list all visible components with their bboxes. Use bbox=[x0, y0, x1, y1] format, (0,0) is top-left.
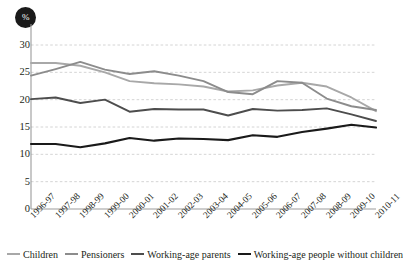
x-tick-label: 2006-07 bbox=[274, 191, 303, 220]
legend-item[interactable]: Working-age parents bbox=[131, 249, 230, 260]
legend-swatch-icon bbox=[7, 253, 20, 256]
x-tick-label: 2010-11 bbox=[373, 191, 402, 220]
x-tick-label: 1997-98 bbox=[53, 191, 82, 220]
x-tick-label: 2008-09 bbox=[324, 191, 353, 220]
x-tick-label: 1996-97 bbox=[28, 191, 57, 220]
legend-item[interactable]: Pensioners bbox=[65, 249, 124, 260]
x-tick-label: 2004-05 bbox=[225, 191, 254, 220]
x-tick-label: 2002-03 bbox=[176, 191, 205, 220]
x-tick-label: 2001-02 bbox=[151, 191, 180, 220]
legend-swatch-icon bbox=[238, 253, 251, 256]
x-tick-label: 1998-99 bbox=[77, 191, 106, 220]
x-tick-label: 2005-06 bbox=[250, 191, 279, 220]
x-tick-label: 2007-08 bbox=[299, 191, 328, 220]
legend-item-label: Working-age parents bbox=[147, 249, 230, 260]
legend-swatch-icon bbox=[65, 253, 78, 256]
legend-item-label: Children bbox=[23, 249, 58, 260]
legend-item-label: Working-age people without children bbox=[254, 249, 403, 260]
x-tick-label: 2000-01 bbox=[127, 191, 156, 220]
legend-item[interactable]: Children bbox=[7, 249, 58, 260]
legend-item-label: Pensioners bbox=[81, 249, 124, 260]
legend-item[interactable]: Working-age people without children bbox=[238, 249, 403, 260]
x-tick-label: 2003-04 bbox=[201, 191, 230, 220]
legend-swatch-icon bbox=[131, 253, 144, 256]
chart-legend: ChildrenPensionersWorking-age parentsWor… bbox=[7, 246, 391, 262]
x-tick-label: 2009-10 bbox=[348, 191, 377, 220]
x-tick-label: 1999-00 bbox=[102, 191, 131, 220]
